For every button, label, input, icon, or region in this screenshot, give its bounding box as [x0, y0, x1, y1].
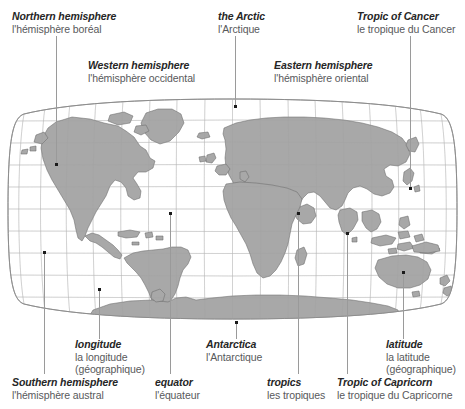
callout-tropics: tropics les tropiques: [267, 376, 325, 401]
leader-line-longitude: [99, 289, 100, 339]
leader-line-tropic-of-cancer: [410, 36, 411, 188]
world-map-figure: Northern hemisphere l'hémisphère boréal …: [0, 0, 465, 409]
anchor-dot-equator: [169, 212, 172, 215]
label-fr-tropics: les tropiques: [267, 389, 325, 402]
label-fr-tropic-of-capricorn: le tropique du Capricorne: [337, 389, 452, 402]
label-fr-western-hemisphere: l'hémisphère occidental: [88, 72, 195, 85]
label-fr-latitude: la latitude: [386, 351, 456, 364]
leader-line-tropic-of-capricorn: [347, 233, 348, 374]
label-fr-southern-hemisphere: l'hémisphère austral: [12, 389, 118, 402]
anchor-dot-latitude: [402, 271, 405, 274]
label-en-southern-hemisphere: Southern hemisphere: [12, 376, 118, 389]
anchor-dot-tropics: [297, 212, 300, 215]
callout-northern-hemisphere: Northern hemisphere l'hémisphère boréal: [12, 10, 116, 35]
label-en-tropic-of-capricorn: Tropic of Capricorn: [337, 376, 452, 389]
callout-antarctica: Antarctica l'Antarctique: [206, 338, 262, 363]
label-en-tropics: tropics: [267, 376, 325, 389]
label-en-eastern-hemisphere: Eastern hemisphere: [274, 59, 373, 72]
label-en-northern-hemisphere: Northern hemisphere: [12, 10, 116, 23]
callout-southern-hemisphere: Southern hemisphere l'hémisphère austral: [12, 376, 118, 401]
label-fr-tropic-of-cancer: le tropique du Cancer: [357, 23, 455, 36]
label-fr-the-arctic: l'Arctique: [218, 23, 265, 36]
label-fr-antarctica: l'Antarctique: [206, 351, 262, 364]
label-en-tropic-of-cancer: Tropic of Cancer: [357, 10, 455, 23]
leader-line-latitude: [403, 272, 404, 339]
callout-longitude: longitude la longitude (géographique): [75, 338, 145, 376]
label-fr-eastern-hemisphere: l'hémisphère oriental: [274, 72, 373, 85]
callout-western-hemisphere: Western hemisphere l'hémisphère occident…: [88, 59, 195, 84]
callout-tropic-of-cancer: Tropic of Cancer le tropique du Cancer: [357, 10, 455, 35]
anchor-dot-antarctica: [235, 321, 238, 324]
leader-line-the-arctic: [235, 36, 236, 106]
label-en-western-hemisphere: Western hemisphere: [88, 59, 195, 72]
anchor-dot-northern-hemisphere: [55, 163, 58, 166]
leader-line-antarctica: [236, 322, 237, 339]
label-fr-longitude: la longitude: [75, 351, 145, 364]
leader-line-northern-hemisphere: [56, 36, 57, 164]
label-fr2-latitude: (géographique): [386, 363, 456, 376]
leader-line-equator: [170, 213, 171, 374]
label-en-the-arctic: the Arctic: [218, 10, 265, 23]
callout-eastern-hemisphere: Eastern hemisphere l'hémisphère oriental: [274, 59, 373, 84]
anchor-dot-southern-hemisphere: [43, 251, 46, 254]
label-en-equator: equator: [155, 376, 200, 389]
label-fr2-longitude: (géographique): [75, 363, 145, 376]
leader-line-tropics: [298, 213, 299, 374]
label-en-longitude: longitude: [75, 338, 145, 351]
anchor-dot-longitude: [98, 288, 101, 291]
callout-equator: equator l'équateur: [155, 376, 200, 401]
anchor-dot-tropic-of-cancer: [409, 187, 412, 190]
label-en-latitude: latitude: [386, 338, 456, 351]
callout-tropic-of-capricorn: Tropic of Capricorn le tropique du Capri…: [337, 376, 452, 401]
anchor-dot-tropic-of-capricorn: [346, 232, 349, 235]
label-fr-equator: l'équateur: [155, 389, 200, 402]
leader-line-southern-hemisphere: [44, 252, 45, 374]
label-en-antarctica: Antarctica: [206, 338, 262, 351]
anchor-dot-the-arctic: [234, 105, 237, 108]
label-fr-northern-hemisphere: l'hémisphère boréal: [12, 23, 116, 36]
world-map-graphic: [0, 92, 465, 332]
callout-the-arctic: the Arctic l'Arctique: [218, 10, 265, 35]
callout-latitude: latitude la latitude (géographique): [386, 338, 456, 376]
